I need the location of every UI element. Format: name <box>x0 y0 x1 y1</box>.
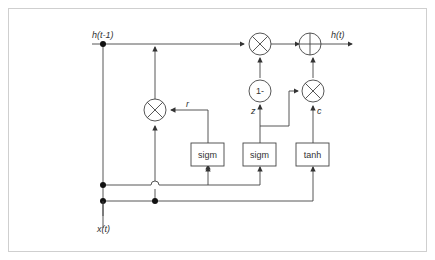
multiply-node-hprev <box>249 33 271 55</box>
h-prev-label: h(t-1) <box>92 30 114 40</box>
reset-gate-label: r <box>186 99 190 109</box>
multiply-node-reset <box>144 99 166 121</box>
multiply-node-candidate <box>302 80 324 102</box>
junction-dot <box>100 182 106 188</box>
h-out-label: h(t) <box>331 30 345 40</box>
sigm-reset-label: sigm <box>198 150 217 160</box>
add-node <box>299 33 321 55</box>
x-input-label: x(t) <box>96 224 110 234</box>
candidate-label: c <box>317 106 322 116</box>
one-minus-label: 1- <box>256 86 264 96</box>
junction-dot <box>152 198 158 204</box>
junction-dot <box>100 41 106 47</box>
sigm-update-label: sigm <box>250 150 269 160</box>
tanh-label: tanh <box>304 150 322 160</box>
gru-diagram: sigm sigm tanh 1- h(t-1) h(t) x(t) r z c <box>0 0 435 260</box>
update-gate-label: z <box>250 106 256 116</box>
